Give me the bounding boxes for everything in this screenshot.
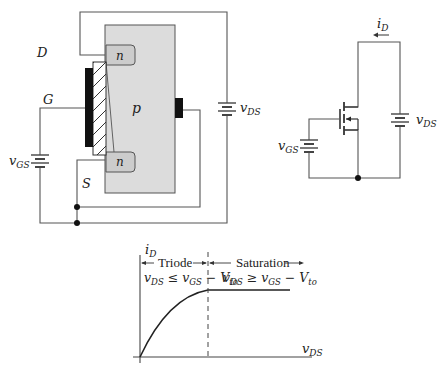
gate-metal	[85, 68, 93, 147]
schematic-vds-label: vDS	[416, 112, 437, 129]
gate-label: G	[43, 92, 53, 107]
id-arrow-icon	[373, 33, 389, 38]
schematic-vds-battery	[391, 114, 409, 126]
schematic-gate-wire	[309, 119, 339, 140]
id-curve	[140, 290, 290, 357]
gate-wire	[40, 108, 85, 155]
p-label: p	[132, 100, 141, 116]
schematic-vgs-label: vGS	[278, 138, 299, 155]
y-axis-label: iD	[145, 242, 156, 259]
x-axis-label: vDS	[302, 341, 323, 358]
id-label: iD	[377, 16, 388, 33]
schematic-drain-wire	[345, 42, 400, 114]
schematic-vgs-lower-wire	[309, 153, 358, 178]
body-arrow-icon	[346, 117, 351, 122]
drain-n-label: n	[116, 49, 124, 63]
vds-label: vDS	[240, 100, 261, 117]
saturation-label: Saturation	[236, 255, 290, 270]
body-contact	[175, 98, 183, 118]
mosfet-schematic: iD vGS vDS	[278, 16, 437, 181]
schematic-source-wire	[345, 130, 358, 178]
schematic-junction-dot	[355, 175, 361, 181]
source-label: S	[82, 176, 91, 191]
schematic-vgs-battery	[300, 140, 318, 152]
vgs-lower-wire	[40, 168, 77, 223]
mosfet-figure: D G S p n n vGS vDS	[0, 0, 444, 372]
physical-mosfet: D G S p n n vGS vDS	[9, 12, 261, 226]
gate-oxide	[93, 62, 106, 155]
mosfet-symbol	[340, 102, 358, 135]
schematic-vds-lower-wire	[358, 127, 400, 178]
saturation-condition: vDS ≥ vGS − Vto	[223, 270, 317, 287]
junction-dot	[74, 204, 80, 210]
vgs-label: vGS	[9, 153, 30, 170]
junction-dot	[74, 220, 80, 226]
vds-battery	[218, 103, 236, 115]
source-wire	[77, 160, 105, 223]
source-n-label: n	[116, 155, 124, 169]
triode-label: Triode	[158, 255, 192, 270]
vgs-battery	[31, 155, 49, 167]
id-vds-graph: Triode Saturation vDS ≤ vGS − Vto vDS ≥ …	[133, 242, 323, 363]
drain-label: D	[36, 45, 48, 60]
